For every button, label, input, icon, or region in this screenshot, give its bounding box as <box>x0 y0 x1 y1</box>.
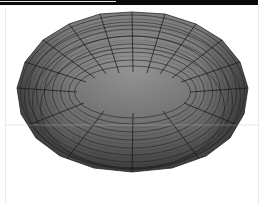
torus-shape <box>0 0 267 207</box>
torus-render <box>0 0 267 207</box>
